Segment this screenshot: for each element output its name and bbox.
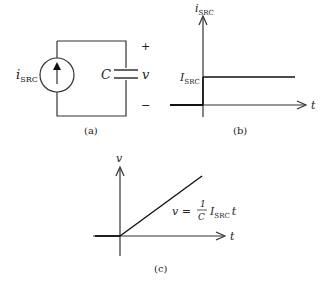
- panel-c-plot: [93, 167, 225, 256]
- c-x-axis-label: t: [230, 230, 235, 243]
- wire-bottom: [57, 80, 126, 116]
- ramp-equation: v = 1 C ISRCt: [172, 199, 237, 222]
- panel-a-circuit: [40, 41, 138, 116]
- svg-text:v =: v =: [172, 205, 191, 218]
- plus-sign: +: [141, 40, 150, 53]
- svg-text:ISRCt: ISRCt: [209, 205, 237, 220]
- caption-c: (c): [154, 263, 168, 274]
- panel-b-plot: [170, 16, 306, 117]
- b-x-axis-label: t: [311, 99, 316, 112]
- svg-text:1: 1: [200, 199, 206, 209]
- minus-sign: −: [141, 99, 150, 112]
- caption-a: (a): [84, 125, 98, 136]
- b-y-axis-label: iSRC: [195, 2, 214, 17]
- arrow-head-icon: [53, 62, 61, 70]
- svg-text:C: C: [198, 212, 205, 222]
- b-level-label: ISRC: [179, 71, 200, 86]
- voltage-label: v: [142, 67, 150, 82]
- capacitor-label: C: [101, 67, 111, 82]
- c-y-axis-label: v: [116, 152, 123, 165]
- wire-top: [57, 41, 126, 68]
- caption-b: (b): [233, 125, 247, 136]
- source-label: iSRC: [16, 67, 38, 84]
